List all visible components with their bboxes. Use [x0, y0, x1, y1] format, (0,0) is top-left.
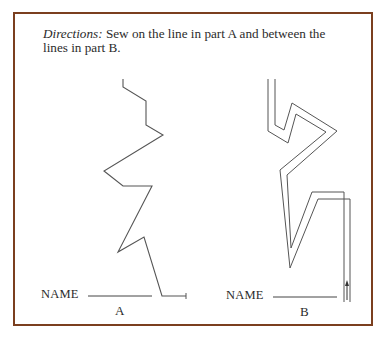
- part-a-sewing-line: [104, 79, 186, 296]
- part-a-label: A: [115, 303, 124, 319]
- part-b-name-label: NAME: [226, 288, 264, 303]
- part-a-name-label: NAME: [41, 287, 79, 302]
- part-b-outer-line: [268, 79, 350, 302]
- arrow-up-icon: [345, 280, 349, 286]
- part-b-inner-line: [275, 79, 344, 302]
- part-b-label: B: [300, 304, 309, 320]
